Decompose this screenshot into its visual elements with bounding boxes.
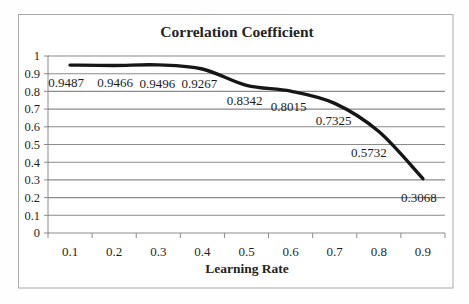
y-axis-tick-label: 0.5 — [24, 138, 40, 152]
x-axis-title: Learning Rate — [205, 261, 289, 276]
correlation-chart: Correlation Coefficient 00.10.20.30.40.5… — [0, 0, 469, 304]
data-label: 0.9466 — [97, 75, 133, 90]
chart-title: Correlation Coefficient — [160, 23, 314, 40]
data-label: 0.8015 — [271, 99, 307, 114]
y-axis-tick-label: 0.1 — [24, 209, 40, 223]
data-label: 0.9267 — [182, 76, 218, 91]
data-label: 0.9487 — [48, 75, 84, 90]
x-axis-tick-label: 0.6 — [282, 244, 299, 259]
data-label: 0.5732 — [351, 145, 387, 160]
y-axis-tick-label: 0.7 — [24, 102, 40, 116]
y-axis-tick-label: 0.6 — [24, 120, 40, 134]
x-axis-tick-label: 0.1 — [62, 244, 78, 259]
data-label: 0.3068 — [401, 190, 437, 205]
y-axis-tick-label: 0 — [34, 226, 40, 240]
x-axis-tick-label: 0.9 — [415, 244, 431, 259]
y-axis-tick-label: 0.2 — [24, 191, 40, 205]
y-axis-tick-label: 0.8 — [24, 85, 40, 99]
data-label: 0.8342 — [227, 93, 263, 108]
data-label: 0.7325 — [316, 113, 352, 128]
y-axis-tick-label: 0.3 — [24, 173, 40, 187]
screenshot-root: Correlation Coefficient 00.10.20.30.40.5… — [0, 0, 469, 304]
y-axis-tick-label: 0.9 — [24, 67, 40, 81]
x-axis-tick-label: 0.4 — [194, 244, 211, 259]
x-axis-tick-label: 0.2 — [106, 244, 122, 259]
data-label: 0.9496 — [139, 76, 175, 91]
x-axis-tick-label: 0.8 — [371, 244, 387, 259]
x-axis-tick-label: 0.5 — [238, 244, 254, 259]
x-axis-tick-label: 0.3 — [150, 244, 166, 259]
x-axis-tick-label: 0.7 — [327, 244, 344, 259]
y-axis-tick-label: 0.4 — [24, 156, 40, 170]
y-axis-tick-label: 1 — [34, 49, 40, 63]
